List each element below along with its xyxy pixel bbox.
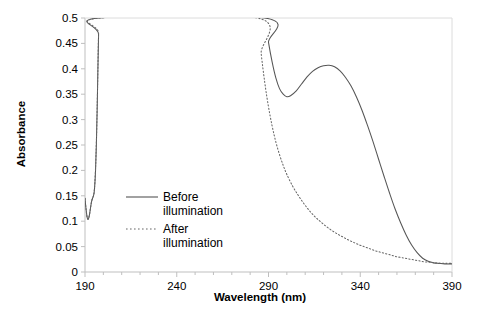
y-tick-label: 0.3: [25, 114, 78, 126]
x-tick-label: 190: [55, 280, 115, 292]
y-tick-label: 0.35: [25, 88, 78, 100]
y-tick-label: 0.25: [25, 139, 78, 151]
y-tick-label: 0.05: [25, 241, 78, 253]
legend-label-before-line2: illumination: [163, 204, 223, 218]
legend-label-before-line1: Before: [163, 190, 198, 204]
y-tick-label: 0.2: [25, 164, 78, 176]
y-tick-label: 0.4: [25, 63, 78, 75]
y-tick-label: 0.5: [25, 12, 78, 24]
x-axis-title: Wavelength (nm): [150, 291, 370, 303]
legend-swatches: [126, 190, 166, 250]
y-tick-label: 0.1: [25, 215, 78, 227]
y-tick-label: 0: [25, 266, 78, 278]
x-tick-label: 390: [422, 280, 481, 292]
legend-label-after-line2: illumination: [163, 236, 223, 250]
chart-figure: 00.050.10.150.20.250.30.350.40.450.5 190…: [0, 0, 481, 324]
y-axis-title: Absorbance: [15, 79, 27, 189]
y-tick-label: 0.15: [25, 190, 78, 202]
legend-label-after-line1: After: [163, 222, 188, 236]
y-tick-label: 0.45: [25, 37, 78, 49]
